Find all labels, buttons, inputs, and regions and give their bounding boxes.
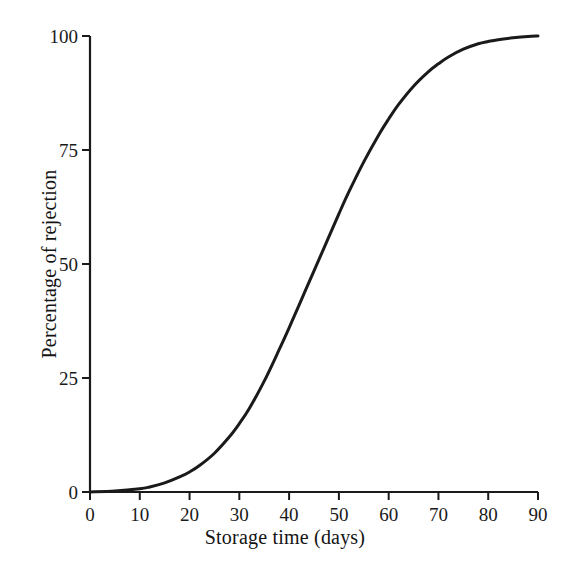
chart-plot-area [0,0,570,571]
y-axis-ticks [82,36,90,492]
data-series-line [90,36,538,492]
x-tick-label: 30 [230,505,249,524]
x-tick-label: 0 [85,505,95,524]
x-tick-label: 90 [529,505,548,524]
x-tick-label: 20 [180,505,199,524]
x-tick-label: 10 [130,505,149,524]
x-tick-label: 70 [429,505,448,524]
x-tick-label: 50 [329,505,348,524]
x-axis-title: Storage time (days) [0,526,570,549]
chart-figure: 0102030405060708090 0255075100 Storage t… [0,0,570,571]
x-axis-ticks [90,492,538,500]
x-tick-label: 40 [280,505,299,524]
x-tick-label: 60 [379,505,398,524]
x-tick-label: 80 [479,505,498,524]
y-axis-title: Percentage of rejection [38,36,61,492]
